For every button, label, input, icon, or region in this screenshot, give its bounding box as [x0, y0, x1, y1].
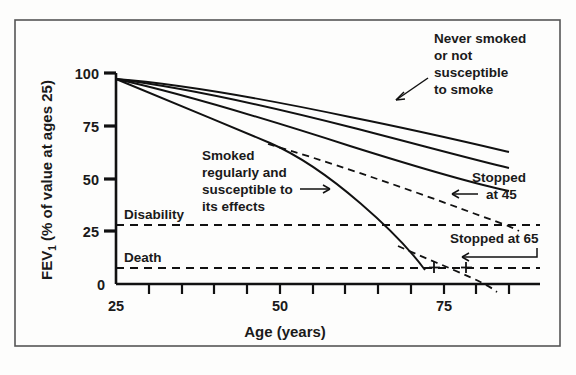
figure-root: 100 75 50 25 0 25 50 75 Age (years)	[0, 0, 576, 375]
y-tick-label-100: 100	[75, 66, 99, 82]
annotation-never-smoked-line3: susceptible	[434, 65, 509, 80]
annotation-smoked-line3: susceptible to	[202, 182, 293, 197]
annotation-stopped-45-line2: at 45	[486, 187, 517, 202]
annotation-stopped-45-line1: Stopped	[472, 170, 526, 185]
annotation-never-smoked: Never smoked or not susceptible to smoke	[396, 31, 526, 100]
curve-stopped-at-45	[268, 144, 519, 231]
death-cross-smoker-marker	[429, 262, 440, 273]
y-tick-label-75: 75	[83, 119, 99, 135]
death-threshold-label: Death	[124, 250, 162, 265]
annotation-never-smoked-line2: or not	[434, 48, 473, 63]
annotation-never-smoked-line1: Never smoked	[434, 31, 526, 46]
x-tick-label-75: 75	[436, 298, 452, 314]
y-axis-ticks	[104, 73, 116, 231]
stopped-65-leader-line	[462, 248, 537, 257]
annotation-smoked-line2: regularly and	[202, 165, 287, 180]
y-axis-title: FEV1 (% of value at ages 25)	[38, 80, 58, 280]
y-tick-label-25: 25	[83, 224, 99, 240]
annotation-never-smoked-line4: to smoke	[434, 82, 494, 97]
svg-text:FEV1 (% of value at ages 25): FEV1 (% of value at ages 25)	[38, 80, 58, 280]
annotation-smoked-line1: Smoked	[202, 148, 255, 163]
never-smoked-leader-line	[396, 78, 428, 100]
y-tick-label-0: 0	[97, 277, 105, 293]
disability-threshold-label: Disability	[124, 207, 185, 222]
death-cross-stopped-65-marker	[461, 262, 472, 273]
y-axis-title-main: FEV	[38, 251, 55, 280]
annotation-stopped-65-label: Stopped at 65	[450, 231, 539, 246]
annotation-smoked-line4: its effects	[202, 199, 265, 214]
x-tick-label-25: 25	[108, 298, 124, 314]
never-smoked-arrowhead-icon	[396, 92, 405, 100]
x-axis-title: Age (years)	[244, 323, 326, 340]
x-axis-ticks	[149, 284, 509, 294]
annotation-smoked-regularly: Smoked regularly and susceptible to its …	[202, 148, 330, 214]
x-tick-label-50: 50	[272, 298, 288, 314]
y-axis-title-rest: (% of value at ages 25)	[38, 80, 55, 245]
lung-function-decline-chart: 100 75 50 25 0 25 50 75 Age (years)	[0, 0, 576, 375]
annotation-stopped-at-65: Stopped at 65	[450, 231, 539, 261]
y-tick-label-50: 50	[83, 172, 99, 188]
